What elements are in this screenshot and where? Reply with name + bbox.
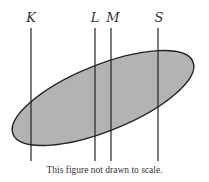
label-l: L [90,10,100,25]
figure-caption: This figure not drawn to scale. [0,165,209,175]
label-s: S [155,10,164,25]
diagram: K L M S [0,0,209,182]
label-k: K [25,10,37,25]
label-m: M [105,10,120,25]
